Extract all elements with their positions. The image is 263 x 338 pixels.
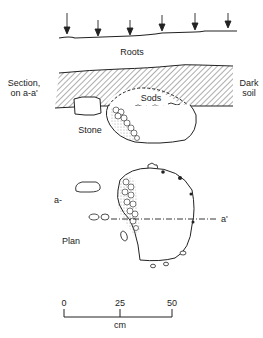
stone-block: [74, 97, 101, 115]
a-prime-marker-label: a': [221, 214, 228, 224]
dark-soil-label-line2: soil: [236, 88, 262, 98]
sods-label: Sods: [136, 93, 166, 103]
arrow-icon: [127, 20, 133, 35]
scale-tick-50: 50: [162, 298, 182, 308]
arrow-icon: [64, 13, 70, 34]
plan-pebble: [164, 262, 169, 266]
plan-pebble: [89, 214, 99, 220]
plan-pebble: [151, 264, 156, 268]
scale-bar: [64, 309, 172, 317]
plan-pebble: [180, 251, 186, 255]
plan-label: Plan: [62, 236, 80, 246]
scale-tick-0: 0: [54, 298, 74, 308]
arrow-icon: [192, 13, 198, 30]
dark-soil-label-line1: Dark: [236, 78, 262, 88]
scale-unit-label: cm: [108, 320, 132, 330]
arrow-icon: [95, 20, 101, 36]
scale-tick-25: 25: [110, 298, 130, 308]
roots-label: Roots: [112, 47, 152, 57]
stone-label: Stone: [74, 125, 106, 135]
arrow-icon: [159, 15, 165, 31]
plan-pebble: [101, 214, 109, 220]
plan-pebble: [119, 230, 128, 241]
arrow-icon: [225, 13, 231, 28]
section-label-line2: on a-a': [2, 88, 46, 98]
a-marker-label: a-: [54, 195, 62, 205]
ground-surface: [59, 31, 237, 38]
root-arrows: [64, 13, 231, 36]
plan-stone-a: [76, 182, 101, 192]
section-label-line1: Section,: [2, 78, 46, 88]
